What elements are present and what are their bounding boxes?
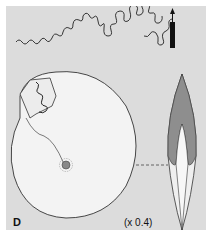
panel-label: D [13,216,21,228]
figure-panel: D (x 0.4) [6,6,206,230]
shell-apertural-view [168,74,196,230]
venter-arrow-icon [170,8,175,48]
shell-lateral-view [11,72,136,218]
ammonite-illustration [6,6,206,230]
suture-line [16,6,172,45]
scale-label: (x 0.4) [124,217,152,228]
